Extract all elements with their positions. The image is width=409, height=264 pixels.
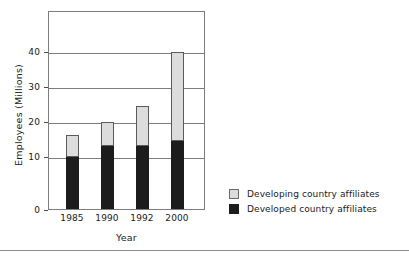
y-axis-title: Employees (Millions) <box>14 40 24 190</box>
x-tick-label-1985: 1985 <box>52 213 92 224</box>
bar-segment-developed-1990 <box>101 146 114 209</box>
x-tick-label-1990: 1990 <box>87 213 127 224</box>
bottom-divider <box>0 250 409 251</box>
x-axis: 1985 1990 1992 2000 <box>48 213 205 227</box>
bar-segment-developing-2000 <box>171 52 184 141</box>
legend-item-developing: Developing country affiliates <box>229 187 380 201</box>
y-tick-label-10: 10 <box>28 153 40 162</box>
legend-item-developed: Developed country affiliates <box>229 202 380 216</box>
stacked-bar-chart-figure: 40 30 20 10 0 Employees (Millions) <box>0 0 409 264</box>
black-swatch-icon <box>229 204 239 214</box>
bar-group-1985 <box>66 11 79 209</box>
bar-group-1990 <box>101 11 114 209</box>
legend-label-developing: Developing country affiliates <box>247 189 380 200</box>
y-axis: 40 30 20 10 0 <box>0 0 48 264</box>
chart-legend: Developing country affiliates Developed … <box>229 187 380 217</box>
bar-segment-developing-1985 <box>66 135 79 157</box>
light-gray-swatch-icon <box>229 189 239 199</box>
legend-label-developed: Developed country affiliates <box>247 204 377 215</box>
bar-segment-developing-1990 <box>101 122 114 146</box>
y-tick-label-20: 20 <box>28 118 40 127</box>
bar-segment-developed-2000 <box>171 141 184 209</box>
x-tick-label-2000: 2000 <box>157 213 197 224</box>
y-tick-label-30: 30 <box>28 83 40 92</box>
bar-segment-developing-1992 <box>136 106 149 146</box>
y-tick-label-40: 40 <box>28 48 40 57</box>
bar-group-2000 <box>171 11 184 209</box>
y-tick-mark-0 <box>44 210 48 211</box>
plot-area <box>48 11 205 210</box>
bar-group-1992 <box>136 11 149 209</box>
bar-segment-developed-1985 <box>66 157 79 209</box>
x-axis-title: Year <box>48 232 205 243</box>
x-tick-label-1992: 1992 <box>122 213 162 224</box>
y-tick-label-0: 0 <box>34 206 40 215</box>
bar-segment-developed-1992 <box>136 146 149 209</box>
